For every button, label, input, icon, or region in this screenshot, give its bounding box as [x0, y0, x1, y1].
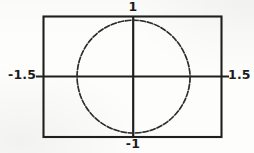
graph-figure: 1 -1 -1.5 1.5	[0, 0, 254, 153]
y-min-label: -1	[0, 138, 254, 151]
plot-canvas	[0, 0, 254, 153]
x-min-label: -1.5	[8, 69, 36, 82]
x-max-label: 1.5	[228, 69, 251, 82]
y-max-label: 1	[0, 1, 254, 14]
